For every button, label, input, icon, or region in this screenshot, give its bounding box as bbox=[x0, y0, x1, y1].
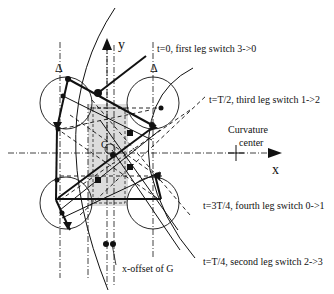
annotation-t-half: t=T/2, third leg switch 1->2 bbox=[209, 95, 320, 105]
gait-diagram: y x t=0, first leg switch 3->0 t=T/2, th… bbox=[0, 0, 334, 294]
delta-left-label: Δ bbox=[55, 62, 63, 74]
y-axis-label: y bbox=[118, 38, 125, 52]
annotation-t0: t=0, first leg switch 3->0 bbox=[157, 44, 256, 54]
curvature-center-label-1: Curvature bbox=[228, 125, 268, 135]
curvature-center-label-2: center bbox=[239, 138, 263, 148]
x-offset-label: x-offset of G bbox=[122, 264, 173, 274]
y-axis-arrow-icon bbox=[102, 38, 112, 50]
origin-label: C bbox=[101, 140, 108, 150]
delta-right-label: Δ bbox=[150, 62, 158, 74]
x-axis-label: x bbox=[272, 163, 279, 177]
shaded-support-region bbox=[88, 104, 128, 206]
annotation-t-quarter: t=T/4, second leg switch 2->3 bbox=[203, 257, 323, 267]
inner-arc bbox=[148, 68, 195, 258]
annotation-t-three-quarter: t=3T/4, fourth leg switch 0->1 bbox=[203, 201, 325, 211]
x-axis-arrow-icon bbox=[268, 148, 282, 158]
